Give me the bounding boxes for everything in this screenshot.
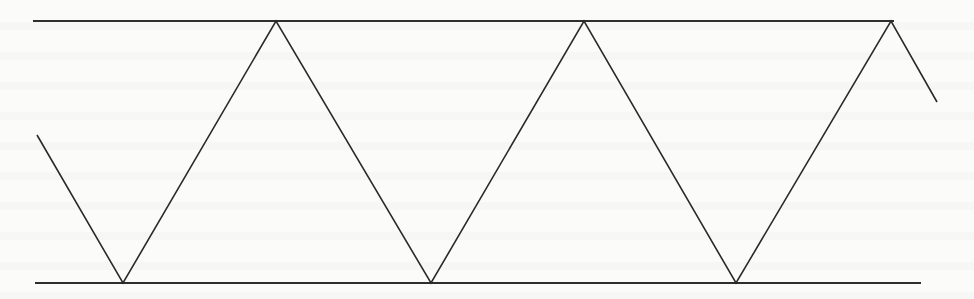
diagram-canvas — [0, 0, 974, 299]
zigzag-line — [37, 21, 937, 283]
zigzag-diagram — [0, 0, 974, 299]
